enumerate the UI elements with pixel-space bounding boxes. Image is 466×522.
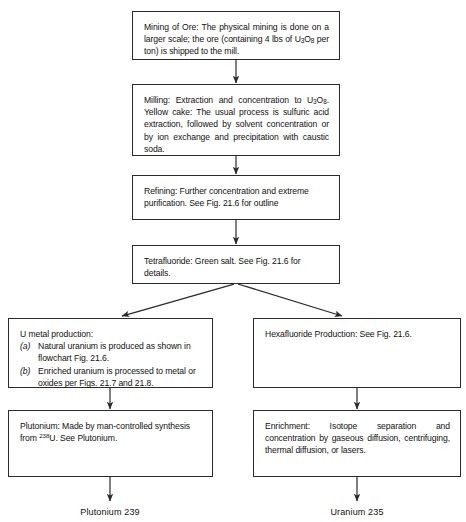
umetal-item-a: (a) Natural uranium is produced as shown… — [20, 340, 202, 364]
plutonium-239-output: Plutonium 239 — [40, 507, 180, 517]
arrow-tetrafluoride-to-hexafluoride — [238, 284, 342, 316]
flowchart-canvas: Mining of Ore: The physical mining is do… — [0, 0, 466, 522]
umetal-text-a: Natural uranium is produced as shown in … — [38, 340, 202, 364]
plutonium-text: Plutonium: Made by man-controlled synthe… — [20, 420, 202, 444]
node-milling-text: Milling: Extraction and concentration to… — [144, 94, 329, 155]
node-tetrafluoride-text: Tetrafluoride: Green salt. See Fig. 21.6… — [144, 255, 329, 279]
node-milling: Milling: Extraction and concentration to… — [132, 84, 340, 156]
uranium-235-output: Uranium 235 — [287, 507, 427, 517]
umetal-text-b: Enriched uranium is processed to metal o… — [38, 365, 202, 389]
node-tetrafluoride: Tetrafluoride: Green salt. See Fig. 21.6… — [132, 245, 340, 284]
node-mining-of-ore: Mining of Ore: The physical mining is do… — [132, 11, 340, 60]
umetal-marker-b: (b) — [20, 365, 34, 389]
arrow-tetrafluoride-to-umetal — [122, 284, 234, 316]
plutonium-text-b: U. See Plutonium. — [49, 433, 117, 443]
milling-text-a: Milling: Extraction and concentration to — [144, 95, 307, 105]
node-plutonium: Plutonium: Made by man-controlled synthe… — [8, 410, 213, 477]
node-enrichment: Enrichment: Isotope separation and conce… — [253, 410, 461, 477]
enrichment-text: Enrichment: Isotope separation and conce… — [265, 420, 450, 457]
node-hexafluoride-production: Hexafluoride Production: See Fig. 21.6. — [253, 318, 461, 388]
u3o8-formula: U3O8 — [295, 34, 315, 44]
uranium-238-superscript: 238 — [39, 432, 49, 439]
node-u-metal-production: U metal production: (a) Natural uranium … — [8, 318, 213, 388]
umetal-item-b: (b) Enriched uranium is processed to met… — [20, 365, 202, 389]
node-mining-text: Mining of Ore: The physical mining is do… — [144, 21, 329, 58]
node-refining: Refining: Further concentration and extr… — [132, 175, 340, 220]
umetal-marker-a: (a) — [20, 340, 34, 364]
hexafluoride-text: Hexafluoride Production: See Fig. 21.6. — [265, 328, 450, 340]
umetal-heading: U metal production: — [20, 328, 202, 340]
u3o8-formula: U3O8 — [307, 95, 327, 105]
node-refining-text: Refining: Further concentration and extr… — [144, 185, 329, 209]
